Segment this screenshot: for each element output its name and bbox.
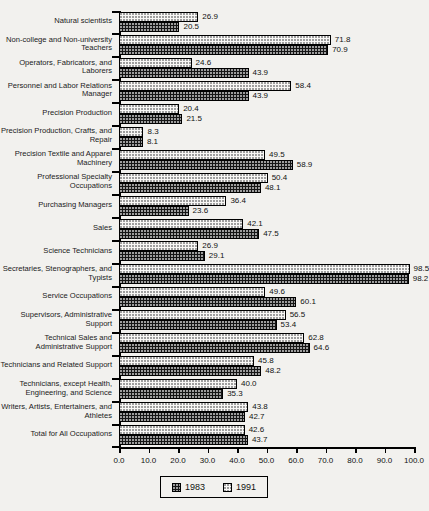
bar-1991 (119, 356, 254, 366)
category-label: Non-college and Non-university Teachers (0, 34, 112, 55)
bar-1983 (119, 206, 189, 216)
legend-swatch-1983-icon (172, 483, 181, 492)
value-label-1991: 98.5 (414, 264, 429, 274)
value-label-1991: 50.4 (272, 173, 288, 183)
value-label-1983: 48.2 (265, 366, 281, 376)
legend-label-1983: 1983 (185, 482, 205, 492)
bar-1983 (119, 274, 409, 284)
value-label-1991: 42.1 (247, 219, 263, 229)
x-tick-label: 30.0 (193, 456, 223, 465)
value-label-1991: 36.4 (230, 196, 246, 206)
x-tick-label: 60.0 (281, 456, 311, 465)
bar-1983 (119, 251, 205, 261)
value-label-1983: 43.7 (252, 435, 268, 445)
value-label-1991: 43.8 (252, 402, 268, 412)
x-tick-label: 40.0 (222, 456, 252, 465)
x-axis-tick (149, 447, 151, 453)
category-label: Purchasing Managers (0, 195, 112, 216)
value-label-1983: 43.9 (253, 68, 269, 78)
x-axis-tick (296, 447, 298, 453)
value-label-1991: 71.8 (335, 35, 351, 45)
bar-1983 (119, 183, 261, 193)
legend-item-1991: 1991 (223, 482, 256, 492)
legend: 1983 1991 (160, 476, 268, 498)
bar-1991 (119, 425, 245, 435)
bar-1991 (119, 127, 143, 137)
x-axis-tick (414, 447, 416, 453)
bar-1991 (119, 402, 248, 412)
bar-1991 (119, 310, 286, 320)
value-label-1991: 49.5 (269, 150, 285, 160)
value-label-1983: 58.9 (297, 160, 313, 170)
x-axis-tick (355, 447, 357, 453)
category-label: Science Technicians (0, 240, 112, 261)
value-label-1983: 48.1 (265, 183, 281, 193)
bar-1983 (119, 297, 296, 307)
category-label: Precision Textile and Apparel Machinery (0, 149, 112, 170)
bar-1991 (119, 58, 192, 68)
bar-1991 (119, 287, 265, 297)
value-label-1991: 56.5 (290, 310, 306, 320)
bar-1983 (119, 389, 223, 399)
bar-1991 (119, 241, 198, 251)
bar-1983 (119, 45, 328, 55)
category-label: Precision Production, Crafts, and Repair (0, 126, 112, 147)
value-label-1983: 53.4 (281, 320, 297, 330)
value-label-1983: 20.5 (183, 22, 199, 32)
x-tick-label: 100.0 (399, 456, 429, 465)
category-label: Supervisors, Administrative Support (0, 309, 112, 330)
bar-1991 (119, 81, 291, 91)
x-axis-tick (385, 447, 387, 453)
bar-1991 (119, 104, 179, 114)
value-label-1983: 21.5 (186, 114, 202, 124)
value-label-1983: 47.5 (263, 229, 279, 239)
bar-1983 (119, 320, 277, 330)
category-label: Technicians, except Health, Engineering,… (0, 378, 112, 399)
category-label: Operators, Fabricators, and Laborers (0, 57, 112, 78)
legend-swatch-1991-icon (223, 483, 232, 492)
bar-1991 (119, 333, 304, 343)
x-axis-tick (326, 447, 328, 453)
bar-1991 (119, 196, 226, 206)
value-label-1983: 60.1 (300, 297, 316, 307)
category-label: Precision Production (0, 103, 112, 124)
value-label-1983: 35.3 (227, 389, 243, 399)
x-tick-label: 50.0 (252, 456, 282, 465)
bar-1991 (119, 379, 237, 389)
bar-1991 (119, 264, 410, 274)
bar-1983 (119, 68, 249, 78)
x-tick-label: 80.0 (340, 456, 370, 465)
x-tick-label: 90.0 (370, 456, 400, 465)
value-label-1983: 23.6 (193, 206, 209, 216)
bar-1983 (119, 114, 182, 124)
category-label: Professional Specialty Occupations (0, 172, 112, 193)
bar-1991 (119, 150, 265, 160)
bar-1991 (119, 173, 268, 183)
legend-label-1991: 1991 (236, 482, 256, 492)
value-label-1991: 42.6 (249, 425, 265, 435)
value-label-1983: 8.1 (147, 137, 158, 147)
bar-chart: Natural scientists26.920.5Non-college an… (0, 0, 429, 511)
bar-1991 (119, 35, 331, 45)
x-axis-tick (267, 447, 269, 453)
value-label-1983: 42.7 (249, 412, 265, 422)
bar-1983 (119, 160, 293, 170)
category-label: Technical Sales and Administrative Suppo… (0, 332, 112, 353)
value-label-1991: 58.4 (295, 81, 311, 91)
value-label-1991: 26.9 (202, 241, 218, 251)
category-label: Service Occupations (0, 286, 112, 307)
x-axis-tick (178, 447, 180, 453)
x-axis-tick (119, 447, 121, 453)
x-tick-label: 70.0 (311, 456, 341, 465)
x-tick-label: 0.0 (104, 456, 134, 465)
category-label: Sales (0, 218, 112, 239)
bar-1983 (119, 137, 143, 147)
value-label-1983: 64.6 (314, 343, 330, 353)
value-label-1983: 98.2 (413, 274, 429, 284)
category-label: Total for All Occupations (0, 424, 112, 445)
x-tick-label: 10.0 (134, 456, 164, 465)
bar-1983 (119, 366, 261, 376)
value-label-1983: 43.9 (253, 91, 269, 101)
value-label-1991: 40.0 (241, 379, 257, 389)
category-label: Writers, Artists, Entertainers, and Athl… (0, 401, 112, 422)
